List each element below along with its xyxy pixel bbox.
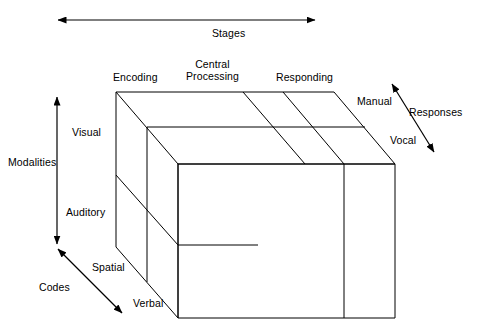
multiple-resource-cube-figure: Stages Modalities Codes Responses Encodi… [0,0,477,332]
cube-diagram [0,0,477,332]
code-label-verbal: Verbal [133,297,163,309]
stage-label-central-processing: Central Processing [186,58,239,82]
stage-label-encoding: Encoding [113,71,158,83]
response-label-vocal: Vocal [390,134,416,146]
partition-stages [243,92,344,318]
axis-label-stages: Stages [212,27,245,39]
axis-label-modalities: Modalities [8,156,56,168]
stage-label-responding: Responding [276,71,333,83]
axis-label-responses: Responses [409,106,462,118]
modality-label-visual: Visual [72,126,101,138]
axis-label-codes: Codes [39,281,70,293]
response-label-manual: Manual [357,95,392,107]
modality-label-auditory: Auditory [66,206,105,218]
cube-front-face [178,164,395,318]
code-label-spatial: Spatial [92,261,125,273]
cube-top-face [116,92,395,164]
